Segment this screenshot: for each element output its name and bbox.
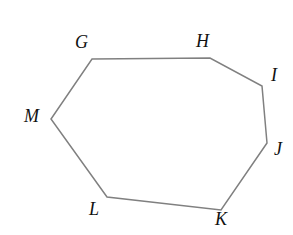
vertex-label-g: G [75,33,88,51]
vertex-label-j: J [274,140,282,158]
heptagon-outline [51,58,267,210]
vertex-label-i: I [271,66,277,84]
vertex-label-k: K [215,210,227,228]
vertex-label-l: L [89,200,99,218]
vertex-label-h: H [196,32,209,50]
geometry-figure-canvas: G H I J K L M [0,0,293,235]
heptagon-shape [0,0,293,235]
vertex-label-m: M [24,107,39,125]
